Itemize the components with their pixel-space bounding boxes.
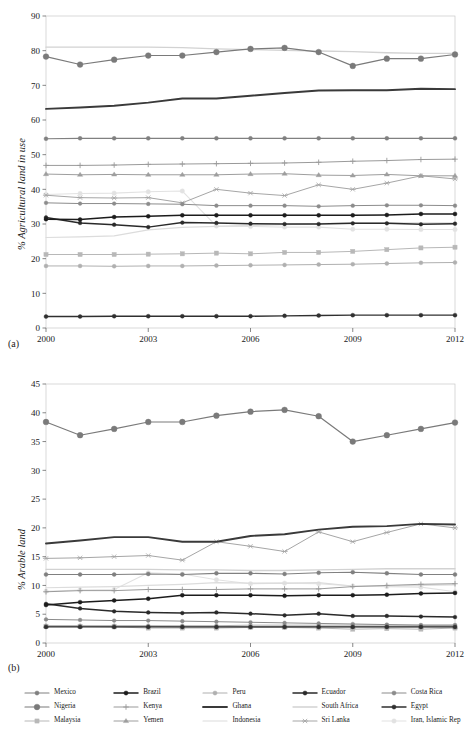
x-tick-label: 2009 [344, 334, 363, 344]
x-tick-label: 2000 [37, 649, 56, 659]
legend-item-yemen[interactable]: Yemen [113, 714, 202, 728]
series-marker [146, 136, 150, 140]
series-marker [215, 620, 219, 624]
legend-item-peru[interactable]: Peru [202, 686, 291, 700]
legend-item-costa-rica[interactable]: Costa Rica [381, 686, 470, 700]
series-marker [44, 618, 48, 622]
legend-item-malaysia[interactable]: Malaysia [24, 714, 113, 728]
series-marker [282, 586, 288, 592]
series-marker [112, 215, 116, 219]
series-line [46, 89, 455, 109]
series-marker [249, 213, 253, 217]
series-marker [44, 201, 48, 205]
legend-label: Costa Rica [411, 689, 442, 696]
series-marker [419, 625, 423, 629]
legend-item-kenya[interactable]: Kenya [113, 700, 202, 714]
series-marker [452, 156, 458, 162]
series-marker [111, 57, 117, 63]
series-marker [316, 413, 322, 419]
series-line [46, 569, 455, 571]
legend-label: Iran, Islamic Rep [411, 717, 461, 724]
series-marker [112, 136, 116, 140]
y-tick-label: 20 [31, 254, 41, 264]
series-marker [384, 530, 390, 534]
series-marker [112, 619, 116, 623]
series-marker [112, 314, 116, 318]
series-marker [385, 614, 389, 618]
series-marker [317, 136, 321, 140]
legend-swatch-icon [381, 715, 407, 727]
legend-item-iran-islamic-rep[interactable]: Iran, Islamic Rep [381, 714, 470, 728]
y-tick-label: 30 [31, 219, 41, 229]
series-marker [317, 204, 321, 208]
series-marker [112, 598, 116, 602]
series-marker [317, 612, 321, 616]
series-marker [146, 314, 150, 318]
series-marker [180, 264, 184, 268]
series-marker [418, 426, 424, 432]
legend-item-indonesia[interactable]: Indonesia [202, 714, 291, 728]
series-marker [249, 222, 253, 226]
series-marker [78, 264, 82, 268]
series-marker [78, 252, 82, 256]
series-marker [146, 625, 150, 629]
y-tick-label: 15 [31, 552, 41, 562]
series-marker [78, 315, 82, 319]
legend-item-south-africa[interactable]: South Africa [292, 700, 381, 714]
series-line [46, 176, 455, 203]
legend-item-mexico[interactable]: Mexico [24, 686, 113, 700]
series-marker [317, 625, 321, 629]
series-marker [249, 593, 253, 597]
series-marker [146, 572, 150, 576]
legend-item-ghana[interactable]: Ghana [202, 700, 291, 714]
legend-marker [123, 704, 129, 710]
series-marker [350, 158, 356, 164]
series-peru [44, 260, 457, 268]
series-kenya [43, 156, 458, 168]
series-line [46, 524, 455, 544]
legend-marker [213, 691, 217, 695]
series-marker [283, 594, 287, 598]
legend-swatch-icon [24, 715, 50, 727]
series-marker [78, 202, 82, 206]
series-marker [385, 262, 389, 266]
legend-item-sri-lanka[interactable]: Sri Lanka [292, 714, 381, 728]
series-marker [215, 611, 219, 615]
series-marker [385, 213, 389, 217]
series-marker [248, 46, 254, 52]
y-tick-label: 40 [31, 185, 41, 195]
series-marker [112, 202, 116, 206]
legend-item-brazil[interactable]: Brazil [113, 686, 202, 700]
series-marker [111, 426, 117, 432]
series-marker [249, 136, 253, 140]
series-marker [283, 314, 287, 318]
series-south-africa [46, 569, 455, 571]
series-marker [385, 571, 389, 575]
legend-item-nigeria[interactable]: Nigeria [24, 700, 113, 714]
legend-item-egypt[interactable]: Egypt [381, 700, 470, 714]
legend-item-ecuador[interactable]: Ecuador [292, 686, 381, 700]
y-tick-label: 50 [31, 150, 41, 160]
legend-swatch-icon [381, 687, 407, 699]
series-marker [146, 202, 150, 206]
legend-marker [124, 691, 128, 695]
series-marker [179, 419, 185, 425]
series-brazil [44, 212, 457, 222]
series-marker [44, 625, 48, 629]
series-marker [419, 227, 424, 232]
legend-swatch-icon [113, 701, 139, 713]
series-marker [43, 54, 49, 60]
y-tick-label: 0 [36, 638, 41, 648]
series-marker [249, 625, 253, 629]
legend-swatch-icon [292, 687, 318, 699]
series-marker [384, 158, 390, 164]
series-marker [351, 227, 356, 232]
series-marker [453, 573, 457, 577]
series-marker [146, 619, 150, 623]
series-marker [283, 136, 287, 140]
panel-b-label: (b) [8, 662, 20, 673]
series-marker [283, 222, 287, 226]
series-marker [351, 213, 355, 217]
legend-label: Kenya [143, 703, 162, 710]
series-marker [385, 625, 389, 629]
